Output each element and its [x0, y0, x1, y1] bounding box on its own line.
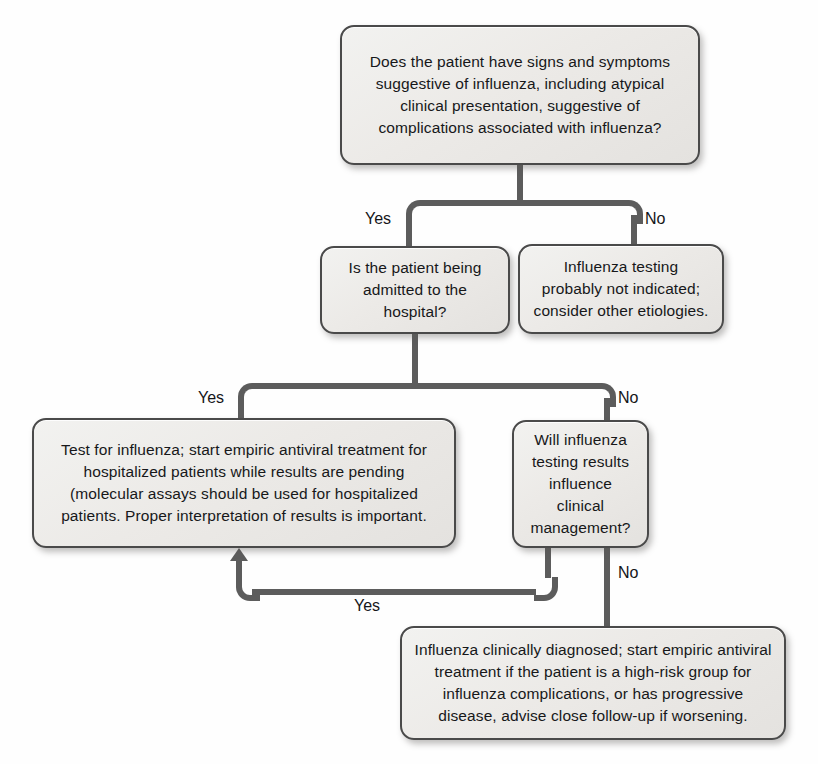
edge-label-admitted-no: No	[618, 390, 638, 406]
connector-no-to-bottom	[604, 546, 610, 628]
node-not-indicated-outcome-text: Influenza testing probably not indicated…	[532, 256, 710, 322]
node-root-question[interactable]: Does the patient have signs and symptoms…	[340, 25, 700, 165]
connector-admitted-stem	[412, 333, 418, 386]
node-not-indicated-outcome[interactable]: Influenza testing probably not indicated…	[518, 244, 724, 334]
node-admitted-question[interactable]: Is the patient being admitted to the hos…	[320, 246, 510, 334]
connector-split1-left-drop	[406, 215, 412, 249]
edge-label-root-yes: Yes	[365, 211, 391, 227]
connector-loop-bar	[252, 589, 536, 595]
node-influence-management-question-text: Will influenza testing results influence…	[526, 429, 635, 539]
edge-label-influence-no: No	[618, 565, 638, 581]
connector-split2-right-drop	[604, 398, 610, 422]
connector-split1-bar	[423, 200, 620, 206]
flowchart-canvas: Yes No Yes No Yes No Does the patient ha…	[0, 0, 818, 764]
connector-split2-bar	[255, 383, 593, 389]
node-admitted-question-text: Is the patient being admitted to the hos…	[334, 257, 496, 323]
connector-loop-arrowhead	[230, 548, 248, 561]
connector-split2-left-drop	[238, 398, 244, 420]
node-influence-management-question[interactable]: Will influenza testing results influence…	[512, 420, 649, 548]
node-clinically-diagnosed-outcome-text: Influenza clinically diagnosed; start em…	[414, 639, 772, 727]
connector-split1-right-drop	[631, 215, 637, 247]
node-root-question-text: Does the patient have signs and symptoms…	[354, 51, 686, 139]
edge-label-admitted-yes: Yes	[198, 390, 224, 406]
connector-loop-corner-right	[534, 577, 558, 601]
node-test-influenza-outcome[interactable]: Test for influenza; start empiric antivi…	[32, 418, 456, 548]
connector-root-stem	[517, 163, 523, 203]
connector-loop-up	[236, 560, 242, 582]
edge-label-root-no: No	[645, 211, 665, 227]
connector-loop-down	[545, 546, 551, 578]
node-test-influenza-outcome-text: Test for influenza; start empiric antivi…	[46, 439, 442, 527]
edge-label-influence-yes: Yes	[354, 598, 380, 614]
node-clinically-diagnosed-outcome[interactable]: Influenza clinically diagnosed; start em…	[400, 626, 786, 740]
